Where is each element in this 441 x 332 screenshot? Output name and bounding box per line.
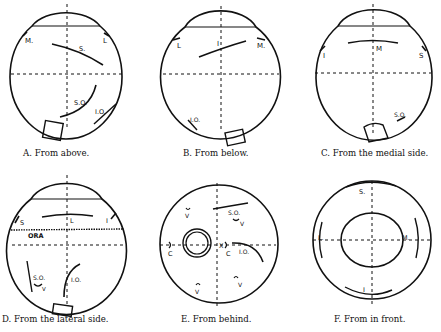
label-io: I.O. <box>239 248 249 255</box>
label-so: S.O. <box>33 274 45 281</box>
label-v-upper-left: V <box>185 212 190 219</box>
label-so: S.O. <box>228 209 240 216</box>
vortex-vein-upper-right <box>233 219 239 221</box>
label-i: I <box>217 40 219 48</box>
caption-panel-e: E. From behind. <box>181 314 252 324</box>
caption-panel-f: F. From in front. <box>334 314 405 324</box>
optic-disc-outer <box>183 229 211 257</box>
inferior-rectus-insertion <box>199 41 246 57</box>
label-v-lower-left: V <box>195 288 200 295</box>
label-s: S. <box>79 45 85 53</box>
panel-e-from-behind: S.O. V V X C C I.O. V V <box>160 183 278 306</box>
label-l: L <box>103 37 107 45</box>
caption-panel-d: D. From the lateral side. <box>2 314 109 324</box>
label-ora: ORA <box>28 232 44 240</box>
label-l: L. <box>318 234 324 242</box>
eyeball-outline <box>10 13 122 139</box>
superior-rectus-insertion <box>52 44 103 65</box>
vortex-vein-upper-left <box>186 208 190 210</box>
label-v-lower-right: V <box>238 281 243 288</box>
label-io: I.O. <box>95 108 106 116</box>
label-m: M. <box>402 234 410 242</box>
panel-d-from-lateral-side: S L I ORA S.O. V I.O. <box>7 175 127 316</box>
optic-nerve-stump <box>364 123 388 142</box>
vortex-vein-mark <box>34 284 42 286</box>
label-x: X <box>219 242 224 250</box>
vortex-vein-lower-right <box>234 277 238 279</box>
label-s: S <box>419 52 424 60</box>
label-m: M. <box>257 42 265 50</box>
optic-disc-inner <box>186 232 208 254</box>
label-v-upper-right: V <box>240 220 245 227</box>
lateral-rectus-insertion <box>42 214 93 217</box>
caption-panel-b: B. From below. <box>183 148 248 158</box>
medial-rectus-insertion <box>415 218 418 258</box>
label-m: M <box>376 45 382 53</box>
inferior-rectus-mark <box>111 213 116 219</box>
label-io: I.O. <box>190 116 200 123</box>
panel-f-from-in-front: S. L. M. I <box>313 181 431 304</box>
eyeball-outline <box>313 181 431 299</box>
label-so: S.O. <box>74 99 87 107</box>
ciliary-mark-left <box>169 242 171 248</box>
panel-c-from-medial-side: I M S S.O. <box>315 4 432 142</box>
panel-b-from-below: L I M. I.O. <box>160 6 280 146</box>
medial-rectus-mark <box>257 38 265 40</box>
label-i: I <box>323 52 325 60</box>
label-s: S <box>20 219 24 227</box>
vortex-vein-lower-left <box>196 284 200 286</box>
inferior-rectus-insertion <box>345 287 392 294</box>
superior-oblique-insertion <box>27 261 32 292</box>
eye-muscle-diagram-figure: M. L S. S.O. I.O. L I M. I.O. I M S S.O. <box>0 0 441 332</box>
eyeball-outline <box>316 10 432 140</box>
label-so: S.O. <box>394 111 406 118</box>
label-s: S. <box>359 188 365 196</box>
label-i: I <box>106 217 108 225</box>
label-l: L <box>177 42 181 50</box>
label-c-right: C <box>226 250 231 258</box>
label-v: V <box>42 286 46 292</box>
label-io: I.O. <box>71 276 81 283</box>
label-m: M. <box>25 37 33 45</box>
caption-panel-a: A. From above. <box>23 148 89 158</box>
panel-a-from-above: M. L S. S.O. I.O. <box>10 4 125 140</box>
ciliary-mark-right <box>225 242 227 248</box>
label-i: I <box>363 286 365 294</box>
label-c-left: C <box>168 250 173 258</box>
label-l: L <box>70 217 74 225</box>
caption-panel-c: C. From the medial side. <box>321 148 428 158</box>
